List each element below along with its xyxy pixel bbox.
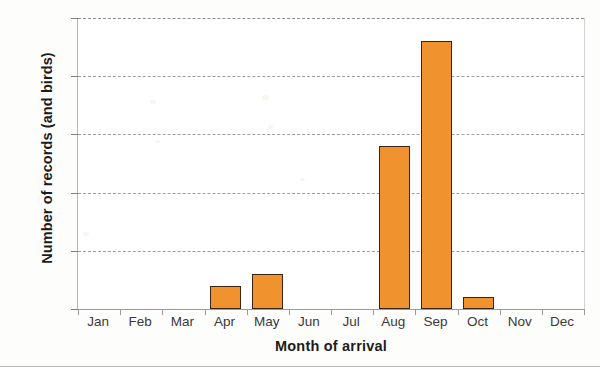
x-axis-tick-label-jul: Jul	[330, 314, 372, 329]
bar-aug[interactable]	[379, 146, 410, 309]
scan-artifact	[300, 178, 305, 181]
bar-sep[interactable]	[421, 41, 452, 309]
scan-artifact	[262, 95, 269, 100]
scan-artifact	[83, 232, 89, 236]
x-axis-tick-label-sep: Sep	[414, 314, 456, 329]
x-axis-tick-label-feb: Feb	[119, 314, 161, 329]
bar-apr[interactable]	[210, 286, 241, 309]
x-axis-tick-label-aug: Aug	[372, 314, 414, 329]
gridline	[78, 18, 584, 19]
y-axis-tick	[71, 251, 78, 252]
x-axis-tick-label-may: May	[246, 314, 288, 329]
x-axis-tick-label-mar: Mar	[161, 314, 203, 329]
scan-artifact	[150, 100, 156, 104]
x-axis-tick-label-apr: Apr	[204, 314, 246, 329]
y-axis-tick	[71, 76, 78, 77]
gridline	[78, 76, 584, 77]
x-axis-title: Month of arrival	[77, 338, 585, 354]
y-axis-tick	[71, 18, 78, 19]
scan-artifact	[155, 140, 160, 143]
plot-area: 0510152025	[77, 18, 585, 310]
x-axis-tick-label-jun: Jun	[288, 314, 330, 329]
x-axis-tick-label-dec: Dec	[541, 314, 583, 329]
y-axis-tick	[71, 134, 78, 135]
x-axis-tick-label-oct: Oct	[457, 314, 499, 329]
x-axis-tick-label-nov: Nov	[499, 314, 541, 329]
scan-artifact	[268, 125, 273, 129]
y-axis-title: Number of records (and birds)	[39, 8, 55, 308]
y-axis-tick	[71, 193, 78, 194]
x-axis-tick	[584, 309, 585, 315]
bar-chart-figure: Number of records (and birds) 0510152025…	[0, 0, 600, 367]
gridline	[78, 193, 584, 194]
bar-may[interactable]	[252, 274, 283, 309]
bar-oct[interactable]	[463, 297, 494, 309]
y-axis-tick	[71, 309, 78, 310]
gridline	[78, 251, 584, 252]
x-axis-tick-label-jan: Jan	[77, 314, 119, 329]
gridline	[78, 134, 584, 135]
